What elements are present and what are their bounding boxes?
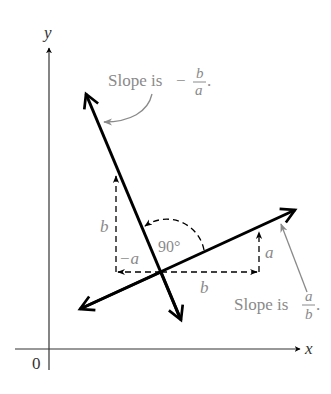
svg-text:a: a (305, 288, 313, 304)
svg-text:b: b (305, 306, 313, 322)
label-b-bottom: b (200, 278, 209, 297)
svg-text:Slope is: Slope is (108, 71, 162, 90)
svg-text:.: . (207, 71, 211, 90)
origin-label: 0 (32, 354, 41, 373)
line-negative-slope-bottom (161, 272, 181, 320)
svg-text:a: a (195, 82, 203, 98)
callout-arrow-positive (281, 224, 307, 292)
slope-label-negative: Slope is − b a . (108, 65, 211, 98)
callout-arrow-negative (104, 94, 152, 122)
svg-text:−: − (176, 71, 186, 90)
svg-text:.: . (316, 295, 320, 314)
label-a-right: a (265, 243, 274, 262)
angle-label: 90° (158, 238, 180, 255)
x-axis-label: x (304, 339, 313, 358)
perpendicular-slopes-diagram: y x 0 Slope is − b a . Slope is a b . 90… (0, 0, 331, 394)
label-b-left: b (100, 217, 109, 236)
y-axis-label: y (42, 23, 52, 42)
svg-text:b: b (196, 65, 204, 81)
label-neg-a: −a (119, 249, 139, 268)
slope-label-positive: Slope is a b . (234, 288, 320, 322)
svg-text:Slope is: Slope is (234, 295, 288, 314)
line-positive-slope-left (80, 272, 161, 309)
